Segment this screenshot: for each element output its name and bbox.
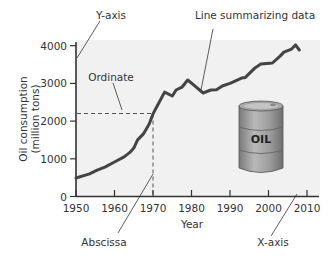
y-axis-title: Oil consumption (million tons) — [17, 76, 41, 161]
x-axis-title: Year — [180, 218, 204, 230]
y-tick-label: 2000 — [40, 115, 67, 127]
line-summary-annotation: Line summarizing data — [195, 9, 315, 21]
y-tick-label: 4000 — [40, 40, 67, 52]
x-tick-label: 1950 — [63, 202, 90, 214]
y-tick-label: 3000 — [40, 77, 67, 89]
y-tick-label: 1000 — [40, 153, 67, 165]
oil-consumption-chart: 01000200030004000 1950196019701980199020… — [0, 0, 333, 265]
x-tick-label: 2000 — [255, 202, 282, 214]
ordinate-annotation: Ordinate — [88, 71, 134, 83]
x-axis-annotation: X-axis — [257, 236, 289, 248]
x-tick-label: 1970 — [140, 202, 167, 214]
x-axis-pointer — [271, 194, 297, 236]
y-ticks: 01000200030004000 — [40, 40, 76, 203]
y-tick-label: 0 — [60, 191, 67, 203]
x-tick-label: 2010 — [294, 202, 321, 214]
x-tick-label: 1990 — [217, 202, 244, 214]
x-tick-label: 1980 — [178, 202, 205, 214]
x-tick-label: 1960 — [101, 202, 128, 214]
abscissa-annotation: Abscissa — [81, 236, 126, 248]
oil-barrel-icon: OIL — [239, 101, 283, 173]
y-axis-title-line1: Oil consumption — [17, 76, 29, 161]
y-axis-title-line2: (million tons) — [29, 84, 41, 153]
barrel-label: OIL — [251, 133, 271, 146]
y-axis-annotation: Y-axis — [95, 9, 126, 21]
